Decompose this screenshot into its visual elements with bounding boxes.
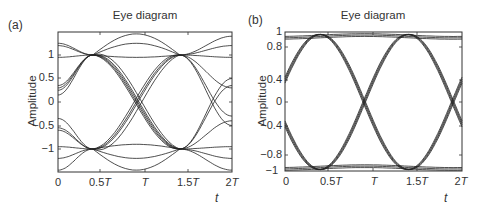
eye-diagram-plots bbox=[0, 0, 480, 208]
panel-a-plot-area bbox=[58, 34, 232, 170]
panel-b-plot-area bbox=[285, 34, 462, 171]
panel-b-axes-box bbox=[285, 32, 462, 171]
